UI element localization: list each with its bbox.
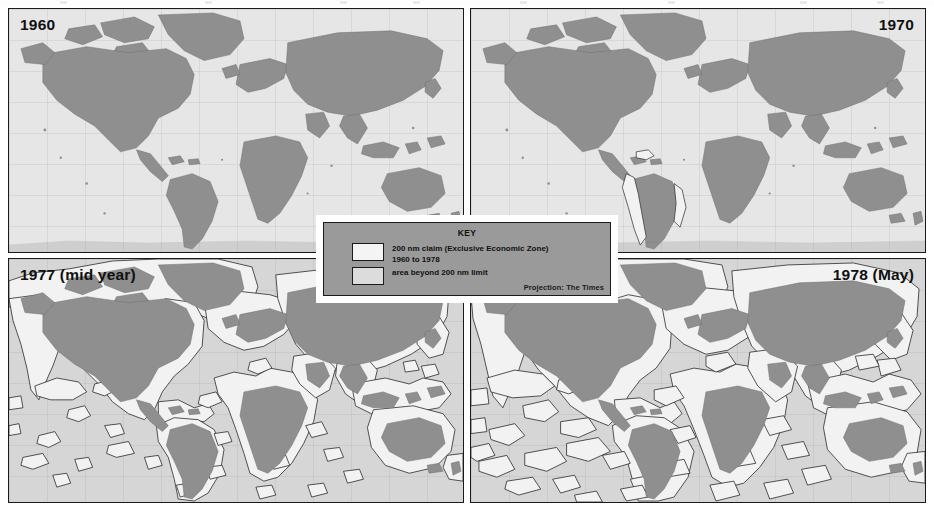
key-entry-eez-line1: 200 nm claim (Exclusive Economic Zone) bbox=[392, 244, 549, 255]
key-swatch-beyond-icon bbox=[352, 267, 384, 285]
panel-year-label: 1978 (May) bbox=[833, 266, 914, 284]
key-entry-beyond-line1: area beyond 200 nm limit bbox=[392, 268, 488, 279]
key-entry-eez: 200 nm claim (Exclusive Economic Zone) 1… bbox=[352, 243, 549, 265]
key-swatch-eez-icon bbox=[352, 243, 384, 261]
panel-year-label: 1977 (mid year) bbox=[20, 266, 136, 284]
panel-year-label: 1960 bbox=[20, 16, 55, 34]
key-entry-beyond: area beyond 200 nm limit bbox=[352, 267, 488, 285]
key-entry-beyond-text: area beyond 200 nm limit bbox=[392, 267, 488, 279]
key-title: KEY bbox=[324, 228, 610, 238]
key-entry-eez-line2: 1960 to 1978 bbox=[392, 255, 549, 266]
panel-year-label: 1970 bbox=[879, 16, 914, 34]
scan-artifact-strip bbox=[0, 0, 934, 6]
figure-root: 1960 bbox=[0, 0, 934, 511]
projection-credit: Projection: The Times bbox=[524, 283, 604, 292]
map-key-container: KEY 200 nm claim (Exclusive Economic Zon… bbox=[316, 215, 618, 303]
map-key: KEY 200 nm claim (Exclusive Economic Zon… bbox=[323, 222, 611, 296]
key-entry-eez-text: 200 nm claim (Exclusive Economic Zone) 1… bbox=[392, 243, 549, 265]
